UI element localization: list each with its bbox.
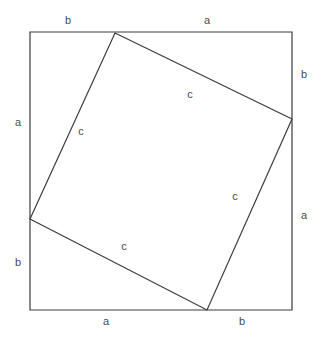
label-top-b: b [61,15,75,26]
label-left-a: a [11,117,25,128]
label-top-a: a [200,15,214,26]
geometry-canvas [0,0,322,340]
label-right-b: b [297,69,311,80]
label-c-topleft: c [74,126,88,137]
diagram-background [0,0,322,340]
label-c-bottomright: c [228,191,242,202]
pythagorean-diagram: babaababcccc [0,0,322,340]
label-bottom-b: b [235,316,249,327]
label-c-topright: c [183,89,197,100]
label-bottom-a: a [99,316,113,327]
label-left-b: b [11,257,25,268]
label-c-bottomleft: c [117,241,131,252]
label-right-a: a [297,210,311,221]
